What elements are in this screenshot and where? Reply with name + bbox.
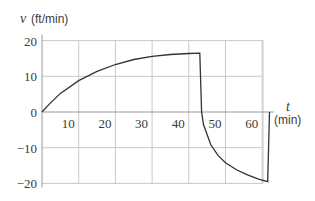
- x-tick-label: 10: [62, 116, 75, 131]
- x-tick-label: 60: [245, 116, 258, 131]
- y-axis-label-symbol: v: [20, 11, 27, 26]
- x-tick-label: 20: [98, 116, 111, 131]
- x-tick-label: 30: [135, 116, 148, 131]
- axes: [42, 35, 274, 188]
- y-tick-label: 20: [24, 34, 37, 49]
- y-tick-label: −10: [17, 141, 37, 156]
- x-tick-label: 40: [172, 116, 185, 131]
- x-axis-label-symbol: t: [286, 99, 291, 114]
- y-tick-label: 0: [31, 105, 38, 120]
- y-axis-label-unit: (ft/min): [31, 12, 68, 26]
- velocity-chart: 20100−10−20102030405060 v (ft/min) t (mi…: [0, 0, 315, 201]
- x-axis-label-unit: (min): [274, 113, 301, 127]
- y-tick-label: 10: [24, 69, 37, 84]
- velocity-curve: [42, 53, 270, 182]
- y-tick-label: −20: [17, 176, 37, 191]
- x-tick-label: 50: [209, 116, 222, 131]
